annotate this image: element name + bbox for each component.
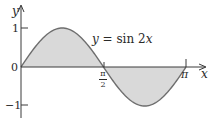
x-tick-label-pi-half: π 2 bbox=[98, 70, 108, 89]
function-label: y = sin 2x bbox=[92, 33, 152, 45]
y-tick-label-neg1: −1 bbox=[5, 100, 21, 111]
pi-half-denominator: 2 bbox=[100, 80, 105, 89]
sine-plot bbox=[0, 0, 214, 124]
y-tick-label-0: 0 bbox=[11, 62, 18, 73]
function-label-x: x bbox=[146, 32, 153, 46]
pi-half-numerator: π bbox=[100, 69, 105, 78]
x-axis-label: x bbox=[201, 68, 208, 80]
y-tick-label-1: 1 bbox=[12, 23, 19, 34]
y-axis-label: y bbox=[12, 5, 19, 17]
x-tick-label-pi: π bbox=[181, 69, 188, 80]
function-label-y: y bbox=[92, 32, 99, 46]
function-label-eq: = sin 2 bbox=[99, 32, 146, 46]
